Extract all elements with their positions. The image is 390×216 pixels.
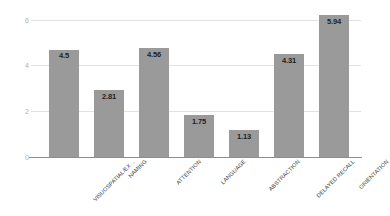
bar-delayed-recall[interactable] — [274, 54, 304, 157]
x-axis-categories: VISUOSPATIAL/EX… NAMING ATTENTION LANGUA… — [31, 159, 361, 216]
category-label-orientation: ORIENTATION — [358, 159, 390, 191]
bar-value-attention: 4.56 — [133, 51, 175, 59]
bar-value-naming: 2.81 — [88, 93, 130, 101]
category-label-visuospatial: VISUOSPATIAL/EX… — [93, 159, 137, 203]
category-label-abstraction: ABSTRACTION — [268, 159, 301, 192]
bar-attention[interactable] — [139, 48, 169, 157]
bar-value-language: 1.75 — [178, 118, 220, 126]
y-tick-label-2: 2 — [5, 108, 29, 115]
y-tick-label-6: 6 — [5, 17, 29, 24]
bar-value-delayed-recall: 4.31 — [268, 57, 310, 65]
bar-value-abstraction: 1.13 — [223, 133, 265, 141]
bar-value-visuospatial: 4.5 — [43, 52, 85, 60]
category-label-attention: ATTENTION — [176, 159, 203, 186]
bar-visuospatial[interactable] — [49, 50, 79, 157]
bar-orientation[interactable] — [319, 15, 349, 157]
y-axis: 6 4 2 0 — [0, 0, 29, 216]
bar-value-orientation: 5.94 — [313, 18, 355, 26]
y-tick-label-4: 4 — [5, 62, 29, 69]
y-tick-label-0: 0 — [5, 154, 29, 161]
category-label-delayed-recall: DELAYED RECALL — [316, 159, 356, 199]
category-label-language: LANGUAGE — [220, 159, 247, 186]
